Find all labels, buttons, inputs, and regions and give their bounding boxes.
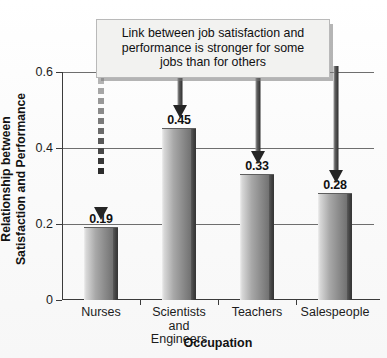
arrow-shaft: [255, 66, 260, 152]
callout-line-2: performance is stronger for some: [105, 41, 321, 56]
x-label-salespeople: Salespeople: [301, 306, 370, 320]
annotation-callout: Link between job satisfaction and perfor…: [96, 19, 330, 78]
annotation-arrow-salespeople: [328, 66, 343, 183]
bar-teachers[interactable]: [240, 174, 274, 300]
arrow-head: [173, 105, 187, 118]
y-tick-label-0.6: 0.6: [36, 65, 53, 79]
bar-edge: [269, 175, 274, 300]
annotation-arrow-teachers: [250, 66, 265, 164]
plot-area: 0.6 0.4 0.2 0 0.19 0.45 0.33 0.28: [62, 72, 374, 300]
callout-line-3: jobs than for others: [105, 55, 321, 70]
y-tick-label-0.2: 0.2: [36, 217, 53, 231]
x-axis-title: Occupation: [62, 336, 374, 350]
y-tick-0: [56, 300, 62, 301]
bar-edge: [191, 129, 196, 300]
callout-line-1: Link between job satisfaction and: [105, 26, 321, 41]
x-tick-0: [140, 300, 141, 305]
y-axis-title: Relationship between Satisfaction and Pe…: [0, 74, 29, 284]
bar-edge: [347, 194, 352, 300]
x-tick-1: [218, 300, 219, 305]
arrow-head: [251, 151, 265, 164]
arrow-dashes: [98, 68, 104, 178]
arrow-head: [329, 170, 343, 183]
x-label-nurses: Nurses: [81, 306, 121, 320]
y-tick-label-0.4: 0.4: [36, 141, 53, 155]
annotation-arrow-nurses: [94, 66, 108, 220]
x-label-teachers: Teachers: [232, 306, 283, 320]
bar-edge: [113, 228, 118, 300]
bar-scientists-and-engineers[interactable]: [162, 128, 196, 300]
arrow-head: [94, 207, 108, 220]
x-tick-2: [296, 300, 297, 305]
y-tick-label-0: 0: [46, 293, 53, 307]
y-axis-line: [62, 72, 63, 300]
bar-salespeople[interactable]: [318, 193, 352, 300]
bar-nurses[interactable]: [84, 227, 118, 300]
arrow-shaft: [333, 66, 338, 171]
chart-figure: Relationship between Satisfaction and Pe…: [0, 0, 387, 358]
